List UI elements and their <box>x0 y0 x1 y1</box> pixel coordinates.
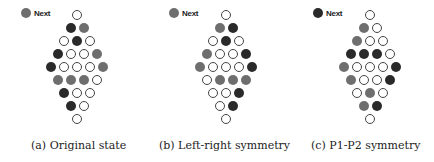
empty-cell <box>365 10 375 20</box>
empty-cell <box>85 36 95 46</box>
black-stone <box>247 62 257 72</box>
empty-cell <box>378 62 388 72</box>
black-stone <box>228 101 238 111</box>
black-stone <box>346 49 356 59</box>
empty-cell <box>215 49 225 59</box>
empty-cell <box>365 114 375 124</box>
black-stone <box>372 49 382 59</box>
empty-cell <box>85 88 95 98</box>
empty-cell <box>85 62 95 72</box>
empty-cell <box>221 88 231 98</box>
board <box>0 0 145 130</box>
gray-stone <box>79 23 89 33</box>
empty-cell <box>66 49 76 59</box>
black-stone <box>46 62 56 72</box>
gray-stone <box>92 49 102 59</box>
panel-c: Next (c) P1-P2 symmetry <box>289 0 434 162</box>
empty-cell <box>352 62 362 72</box>
empty-cell <box>378 88 388 98</box>
empty-cell <box>72 88 82 98</box>
empty-cell <box>215 101 225 111</box>
black-stone <box>241 49 251 59</box>
empty-cell <box>385 49 395 59</box>
caption: (c) P1-P2 symmetry <box>311 139 420 152</box>
empty-cell <box>352 88 362 98</box>
empty-cell <box>228 49 238 59</box>
gray-stone <box>98 62 108 72</box>
empty-cell <box>202 75 212 85</box>
empty-cell <box>208 36 218 46</box>
empty-cell <box>221 10 231 20</box>
gray-stone <box>359 101 369 111</box>
caption: (a) Original state <box>31 139 126 152</box>
black-stone <box>359 49 369 59</box>
empty-cell <box>79 101 89 111</box>
black-stone <box>228 23 238 33</box>
empty-cell <box>359 75 369 85</box>
empty-cell <box>365 36 375 46</box>
panel-a: Next (a) Original state <box>0 0 145 162</box>
gray-stone <box>228 75 238 85</box>
black-stone <box>53 49 63 59</box>
empty-cell <box>59 62 69 72</box>
gray-stone <box>215 75 225 85</box>
empty-cell <box>92 75 102 85</box>
black-stone <box>66 101 76 111</box>
empty-cell <box>72 62 82 72</box>
gray-stone <box>202 49 212 59</box>
empty-cell <box>208 62 218 72</box>
black-stone <box>385 75 395 85</box>
empty-cell <box>72 114 82 124</box>
gray-stone <box>215 23 225 33</box>
empty-cell <box>372 23 382 33</box>
empty-cell <box>365 62 375 72</box>
black-stone <box>72 36 82 46</box>
panel-b: Next (b) Left-right symmetry <box>145 0 290 162</box>
gray-stone <box>339 62 349 72</box>
caption: (b) Left-right symmetry <box>159 139 290 152</box>
black-stone <box>221 36 231 46</box>
black-stone <box>372 101 382 111</box>
gray-stone <box>66 75 76 85</box>
empty-cell <box>221 62 231 72</box>
board <box>145 0 290 130</box>
board <box>289 0 434 130</box>
empty-cell <box>378 36 388 46</box>
empty-cell <box>79 49 89 59</box>
empty-cell <box>208 88 218 98</box>
black-stone <box>66 23 76 33</box>
gray-stone <box>365 88 375 98</box>
black-stone <box>59 88 69 98</box>
empty-cell <box>372 75 382 85</box>
gray-stone <box>346 75 356 85</box>
empty-cell <box>221 114 231 124</box>
empty-cell <box>72 10 82 20</box>
gray-stone <box>241 75 251 85</box>
gray-stone <box>359 23 369 33</box>
gray-stone <box>79 75 89 85</box>
gray-stone <box>53 75 63 85</box>
empty-cell <box>59 36 69 46</box>
gray-stone <box>352 36 362 46</box>
black-stone <box>234 88 244 98</box>
gray-stone <box>195 62 205 72</box>
black-stone <box>391 62 401 72</box>
empty-cell <box>234 62 244 72</box>
empty-cell <box>234 36 244 46</box>
